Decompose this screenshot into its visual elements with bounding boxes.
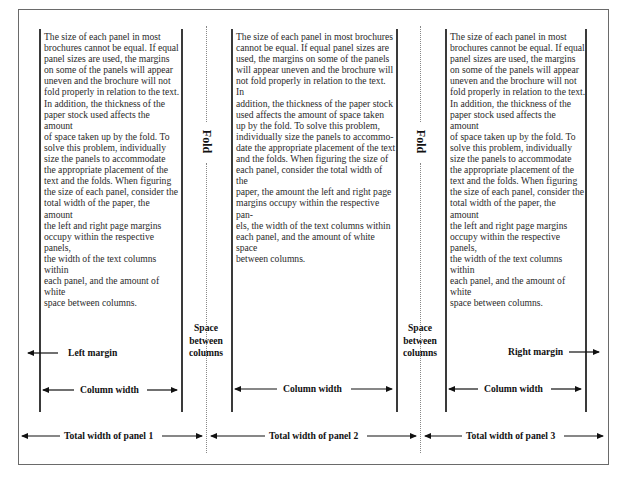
panel-2-total-width-label: Total width of panel 2: [265, 430, 362, 442]
panel-2-column-width-label: Column width: [279, 383, 346, 395]
space-between-columns-label-2: Space between columns: [395, 322, 445, 360]
left-margin-label: Left margin: [64, 347, 121, 359]
panel-1-column-width-label: Column width: [76, 384, 143, 396]
dimension-arrows: [0, 0, 630, 479]
panel-3-total-width-label: Total width of panel 3: [462, 430, 559, 442]
panel-3-column-width-label: Column width: [480, 383, 547, 395]
right-margin-label: Right margin: [504, 346, 567, 358]
panel-1-total-width-label: Total width of panel 1: [60, 430, 157, 442]
space-between-columns-label-1: Space between columns: [181, 322, 231, 360]
